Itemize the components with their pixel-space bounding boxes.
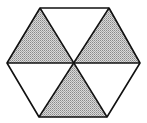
hexagon-diagram (0, 0, 147, 123)
